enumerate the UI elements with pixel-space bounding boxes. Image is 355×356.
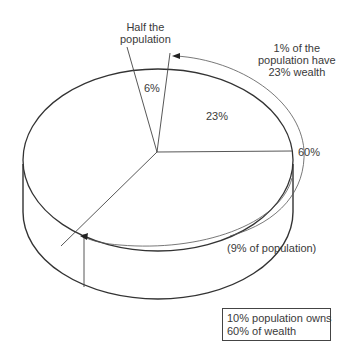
pie-top-ellipse: [23, 69, 293, 251]
sixty-percent-label: 60%: [298, 146, 320, 158]
slice-23-label: 23%: [206, 110, 228, 122]
one-pct-line1: 1% of the: [258, 42, 336, 54]
slice-line-6a: [127, 47, 157, 152]
slice-line-23: [157, 151, 292, 152]
legend-line1: 10% population owns: [227, 312, 326, 325]
slice-6-label: 6%: [144, 82, 160, 94]
one-pct-line3: 23% wealth: [258, 66, 336, 78]
slice-line-lower: [61, 152, 157, 246]
half-population-label: Half the population: [120, 21, 171, 45]
half-line1: Half the: [120, 21, 171, 33]
arrow-head-top: [172, 53, 180, 59]
nine-percent-label: (9% of population): [227, 242, 316, 254]
legend-line2: 60% of wealth: [227, 325, 326, 338]
legend-box: 10% population owns 60% of wealth: [222, 308, 331, 341]
nine-percent-arc: [84, 178, 292, 246]
slice-line-6b: [157, 53, 170, 152]
one-percent-label: 1% of the population have 23% wealth: [258, 42, 336, 78]
half-line2: population: [120, 33, 171, 45]
one-pct-line2: population have: [258, 54, 336, 66]
cylinder-bottom-arc: [23, 164, 293, 299]
one-percent-arc: [176, 56, 304, 236]
